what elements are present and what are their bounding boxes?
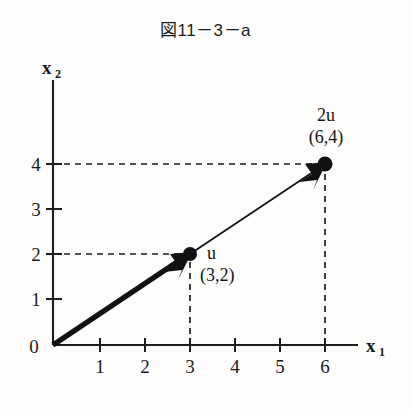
x-axis-label-subscript: 1 xyxy=(379,345,385,359)
vector-plot: 1 2 3 4 5 6 4 3 2 1 0 x 2 x 1 xyxy=(0,0,411,410)
x-tick-label-1: 1 xyxy=(95,356,105,377)
x-tick-label-4: 4 xyxy=(230,356,240,377)
vector-u-to-2u xyxy=(190,170,316,254)
origin-label: 0 xyxy=(29,336,39,357)
x-tick-label-6: 6 xyxy=(320,356,330,377)
point-u-coords: (3,2) xyxy=(200,265,235,286)
y-axis-label: x xyxy=(42,57,52,78)
y-tick-label-3: 3 xyxy=(31,199,41,220)
y-tick-label-4: 4 xyxy=(31,154,41,175)
x-axis-label: x xyxy=(366,335,376,356)
point-2u-label: 2u xyxy=(317,105,335,125)
point-2u xyxy=(318,157,333,172)
y-tick-label-1: 1 xyxy=(31,289,41,310)
y-tick-label-2: 2 xyxy=(31,244,41,265)
x-tick-label-2: 2 xyxy=(140,356,150,377)
point-2u-coords: (6,4) xyxy=(309,127,344,148)
x-tick-label-3: 3 xyxy=(185,356,195,377)
point-u xyxy=(183,247,197,261)
point-u-label: u xyxy=(207,243,216,263)
figure-container: 図11－3－a 1 2 3 4 5 6 4 3 xyxy=(0,0,411,410)
vector-origin-to-u xyxy=(53,258,183,345)
x-tick-label-5: 5 xyxy=(275,356,285,377)
y-axis-label-subscript: 2 xyxy=(55,67,61,81)
